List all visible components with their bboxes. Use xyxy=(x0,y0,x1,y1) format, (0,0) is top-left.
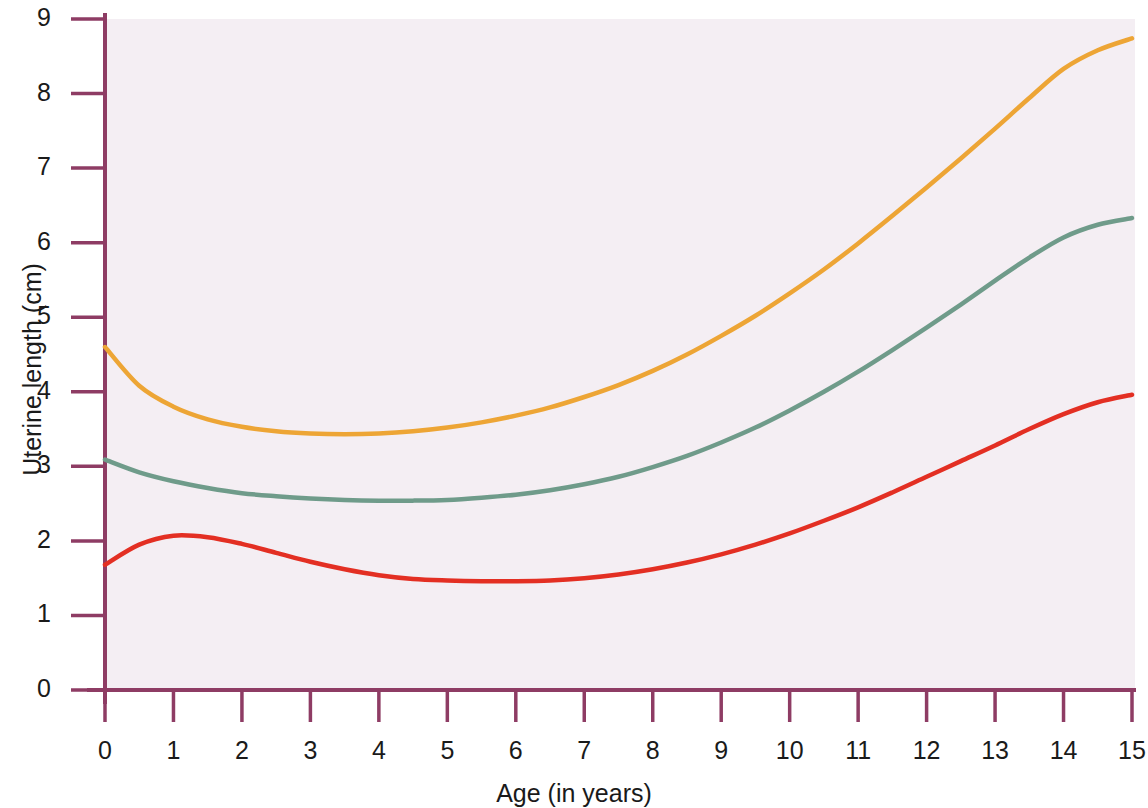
y-tick-label: 0 xyxy=(0,676,51,701)
x-tick-label: 11 xyxy=(828,738,888,763)
x-tick-label: 5 xyxy=(417,738,477,763)
x-tick-label: 12 xyxy=(897,738,957,763)
x-tick-label: 15 xyxy=(1102,738,1148,763)
x-tick-label: 1 xyxy=(143,738,203,763)
x-tick-label: 2 xyxy=(212,738,272,763)
x-tick-label: 9 xyxy=(691,738,751,763)
x-tick-label: 13 xyxy=(965,738,1025,763)
x-tick-label: 6 xyxy=(486,738,546,763)
x-tick-label: 10 xyxy=(760,738,820,763)
y-tick-label: 7 xyxy=(0,154,51,179)
axes-group xyxy=(71,13,1136,722)
y-tick-label: 8 xyxy=(0,80,51,105)
x-tick-label: 3 xyxy=(280,738,340,763)
series-line-upper-curve xyxy=(105,38,1132,434)
x-tick-label: 8 xyxy=(623,738,683,763)
y-axis-title: Uterine length (cm) xyxy=(18,230,47,510)
x-tick-label: 4 xyxy=(349,738,409,763)
x-tick-label: 0 xyxy=(75,738,135,763)
data-series-group xyxy=(105,38,1132,581)
y-tick-label: 2 xyxy=(0,527,51,552)
x-tick-label: 7 xyxy=(554,738,614,763)
series-line-lower-curve xyxy=(105,395,1132,581)
x-tick-label: 14 xyxy=(1034,738,1094,763)
y-tick-label: 1 xyxy=(0,601,51,626)
y-tick-label: 9 xyxy=(0,5,51,30)
x-axis-title: Age (in years) xyxy=(0,779,1148,808)
series-line-middle-curve xyxy=(105,218,1132,501)
